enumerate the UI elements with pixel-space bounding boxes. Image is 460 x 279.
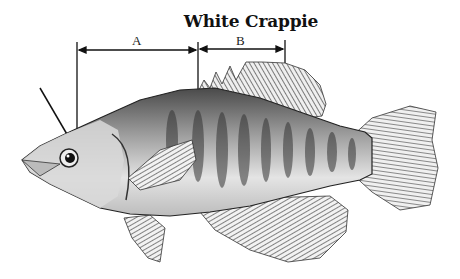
pointer-line: [40, 88, 68, 136]
pelvic-fin: [124, 215, 165, 262]
arrow-left-icon: [200, 46, 207, 52]
arrow-left-icon: [79, 47, 86, 53]
fish-diagram: [0, 0, 460, 279]
arrow-right-icon: [276, 46, 283, 52]
arrow-right-icon: [189, 47, 196, 53]
